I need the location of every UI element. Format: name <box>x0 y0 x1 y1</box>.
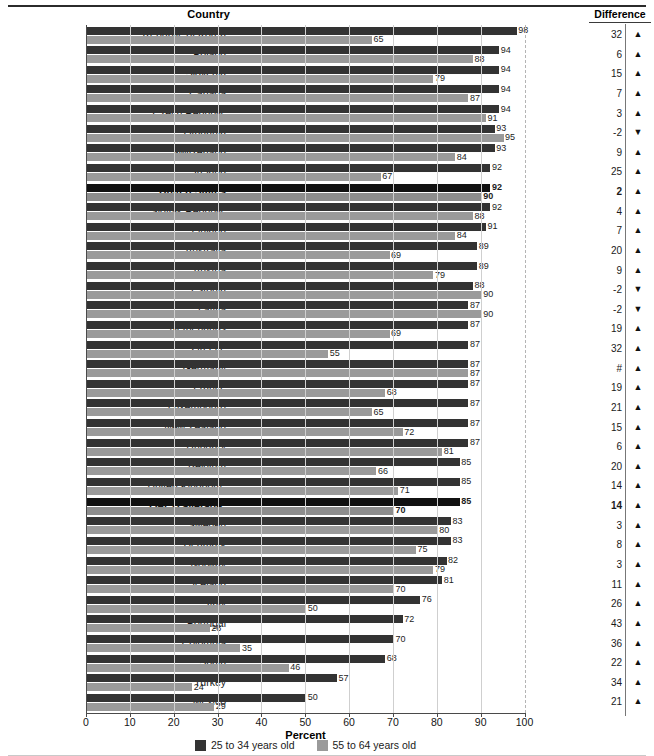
bar-young <box>87 164 490 172</box>
bar-young <box>87 321 468 329</box>
bar-young <box>87 537 451 545</box>
bar-value-young: 87 <box>470 320 480 329</box>
bar-old <box>87 585 394 593</box>
chart-row: Ireland926725▲ <box>0 163 654 183</box>
bar-old <box>87 55 473 63</box>
up-arrow-icon: ▲ <box>630 166 646 176</box>
bar-value-old: 84 <box>457 153 467 162</box>
bar-old <box>87 94 468 102</box>
chart-row: Latvia8790-2▼ <box>0 301 654 321</box>
up-arrow-icon: ▲ <box>630 461 646 471</box>
bar-value-old: 65 <box>374 408 384 417</box>
difference-value: 21 <box>586 696 622 707</box>
difference-value: 32 <box>586 29 622 40</box>
bar-young <box>87 360 468 368</box>
x-tick-label-60: 60 <box>329 716 369 728</box>
bar-old <box>87 114 486 122</box>
bar-young <box>87 27 517 35</box>
bar-old <box>87 330 390 338</box>
bar-value-young: 94 <box>501 105 511 114</box>
up-arrow-icon: ▲ <box>630 480 646 490</box>
up-arrow-icon: ▲ <box>630 108 646 118</box>
bar-value-young: 94 <box>501 65 511 74</box>
bar-young <box>87 242 477 250</box>
bar-value-young: 83 <box>452 536 462 545</box>
up-arrow-icon: ▲ <box>630 29 646 39</box>
up-arrow-icon: ▲ <box>630 579 646 589</box>
bar-value-old: 28 <box>211 624 221 633</box>
bar-value-old: 46 <box>290 663 300 672</box>
chart-legend: 25 to 34 years old55 to 64 years old <box>86 739 525 751</box>
difference-value: 7 <box>586 225 622 236</box>
up-arrow-icon: ▲ <box>630 559 646 569</box>
bar-value-old: 75 <box>417 545 427 554</box>
x-tick-label-0: 0 <box>66 716 106 728</box>
difference-value: 36 <box>586 638 622 649</box>
chart-row: United Kingdom1857114▲ <box>0 477 654 497</box>
difference-value: 20 <box>586 461 622 472</box>
up-arrow-icon: ▲ <box>630 402 646 412</box>
down-arrow-icon: ▼ <box>630 284 646 294</box>
up-arrow-icon: ▲ <box>630 343 646 353</box>
x-tick-label-50: 50 <box>285 716 325 728</box>
bar-old <box>87 173 381 181</box>
difference-value: 34 <box>586 677 622 688</box>
up-arrow-icon: ▲ <box>630 68 646 78</box>
bar-old <box>87 389 385 397</box>
difference-header-rule <box>589 22 651 23</box>
bar-value-young: 87 <box>470 399 480 408</box>
bar-old <box>87 75 433 83</box>
bar-old <box>87 546 416 554</box>
chart-header: Country Difference <box>0 8 654 24</box>
bar-young <box>87 517 451 525</box>
difference-value: 6 <box>586 441 622 452</box>
difference-value: -2 <box>586 284 622 295</box>
bar-young <box>87 144 495 152</box>
country-column-header: Country <box>0 8 230 20</box>
bar-value-young: 82 <box>448 556 458 565</box>
chart-row: OECD average2857014▲ <box>0 497 654 517</box>
gridline-100 <box>525 25 526 713</box>
gridline-60 <box>349 25 350 713</box>
bar-old <box>87 369 468 377</box>
bar-value-old: 68 <box>387 388 397 397</box>
chart-row: Austria89799▲ <box>0 262 654 282</box>
up-arrow-icon: ▲ <box>630 88 646 98</box>
bar-old <box>87 310 482 318</box>
up-arrow-icon: ▲ <box>630 696 646 706</box>
bar-value-old: 24 <box>194 683 204 692</box>
up-arrow-icon: ▲ <box>630 677 646 687</box>
chart-row: Australia896920▲ <box>0 242 654 262</box>
difference-value: 11 <box>586 579 622 590</box>
legend-swatch-icon <box>195 740 206 751</box>
bar-value-old: 90 <box>483 290 493 299</box>
difference-value: 25 <box>586 166 622 177</box>
legend-swatch-icon <box>317 740 328 751</box>
gridline-40 <box>261 25 262 713</box>
gridline-30 <box>218 25 219 713</box>
x-tick-label-10: 10 <box>110 716 150 728</box>
bar-value-young: 87 <box>470 301 480 310</box>
difference-value: 15 <box>586 422 622 433</box>
chart-row: Hungary87816▲ <box>0 438 654 458</box>
bar-value-old: 90 <box>483 192 493 201</box>
difference-value: 26 <box>586 598 622 609</box>
bar-value-old: 91 <box>488 114 498 123</box>
bar-value-old: 70 <box>395 585 405 594</box>
bar-young <box>87 674 337 682</box>
up-arrow-icon: ▲ <box>630 245 646 255</box>
bar-value-young: 94 <box>501 46 511 55</box>
up-arrow-icon: ▲ <box>630 657 646 667</box>
bar-old <box>87 487 398 495</box>
bar-young <box>87 125 495 133</box>
bar-value-young: 85 <box>461 497 471 506</box>
chart-row: Portugal722843▲ <box>0 615 654 635</box>
gridline-90 <box>481 25 482 713</box>
bar-value-young: 70 <box>395 635 405 644</box>
legend-item: 25 to 34 years old <box>195 739 294 751</box>
bar-young <box>87 439 468 447</box>
x-tick-label-70: 70 <box>373 716 413 728</box>
bar-value-old: 88 <box>474 55 484 64</box>
bar-value-young: 76 <box>422 595 432 604</box>
bar-young <box>87 341 468 349</box>
